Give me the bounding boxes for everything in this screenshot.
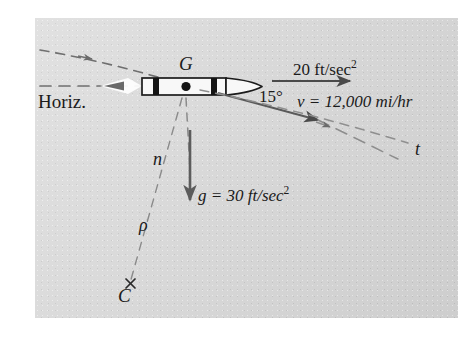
label-horizontal-reference: Horiz. [38, 92, 86, 111]
gravity-exponent: 2 [284, 184, 290, 197]
acceleration-exponent: 2 [351, 58, 357, 71]
diagram-vector-layer [0, 0, 474, 340]
velocity-text: v = 12,000 mi/hr [297, 92, 412, 111]
rocket-nose-cone [226, 78, 262, 95]
label-angle: 15° [259, 88, 283, 105]
label-center-of-mass: G [179, 54, 193, 73]
label-center-of-curvature: C [118, 286, 131, 305]
normal-radius-line-dashed [130, 98, 182, 283]
label-normal-axis: n [153, 150, 162, 168]
rocket-band-aft [153, 78, 159, 95]
gravity-value: g = 30 ft/sec [198, 186, 284, 205]
label-radius-of-curvature: ρ [139, 216, 148, 234]
center-of-mass-dot [181, 82, 190, 91]
label-gravity: g = 30 ft/sec2 [198, 185, 289, 204]
figure-root: Horiz. G 20 ft/sec2 15° v = 12,000 mi/hr… [0, 0, 474, 340]
label-tangent-axis: t [415, 140, 420, 158]
rocket-band-forward [211, 78, 217, 95]
label-velocity: v = 12,000 mi/hr [297, 93, 412, 110]
velocity-line-extension [318, 120, 398, 159]
acceleration-value: 20 ft/sec [293, 60, 351, 79]
label-acceleration: 20 ft/sec2 [293, 59, 357, 78]
